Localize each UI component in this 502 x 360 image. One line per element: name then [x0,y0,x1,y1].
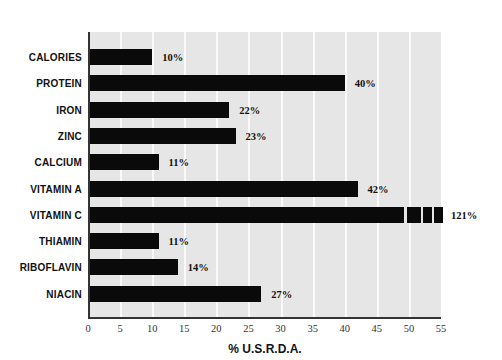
value-label: 11% [169,157,189,168]
value-label: 11% [169,236,189,247]
bar-segment [90,207,404,223]
category-label: VITAMIN A [30,183,82,194]
category-label: RIBOFLAVIN [20,262,82,273]
category-label: CALORIES [29,52,82,63]
bar-segment [434,207,443,223]
bar [90,259,178,275]
gridline [377,32,379,317]
value-label: 121% [451,209,477,220]
x-tick-label: 10 [147,323,158,334]
bar [90,49,152,65]
x-axis-title: % U.S.R.D.A. [228,342,301,356]
value-label: 22% [239,104,260,115]
bar-segment [407,207,421,223]
x-tick-label: 40 [339,323,350,334]
category-label: CALCIUM [34,157,82,168]
bar [90,181,358,197]
category-label: IRON [56,104,82,115]
value-label: 40% [355,78,376,89]
x-tick-label: 45 [372,323,383,334]
x-tick-label: 15 [179,323,190,334]
x-tick-label: 35 [307,323,318,334]
x-tick-label: 0 [85,323,90,334]
gridline [345,32,347,317]
category-label: PROTEIN [36,78,82,89]
value-label: 23% [246,130,267,141]
x-tick-label: 20 [211,323,222,334]
x-tick-label: 55 [436,323,447,334]
value-label: 10% [162,52,183,63]
x-tick-label: 30 [275,323,286,334]
bar [90,128,236,144]
x-tick-label: 25 [243,323,254,334]
plot-area [88,32,441,319]
gridline [409,32,411,317]
x-tick-label: 5 [117,323,122,334]
bar [90,102,229,118]
bar-segment [423,207,432,223]
category-label: THIAMIN [39,236,82,247]
value-label: 27% [271,288,292,299]
x-tick-label: 50 [404,323,415,334]
category-label: VITAMIN C [30,209,82,220]
category-label: ZINC [58,130,82,141]
bar [90,154,159,170]
value-label: 14% [188,262,209,273]
category-label: NIACIN [46,288,82,299]
bar [90,233,159,249]
bar [90,75,345,91]
bar [90,286,261,302]
value-label: 42% [368,183,389,194]
